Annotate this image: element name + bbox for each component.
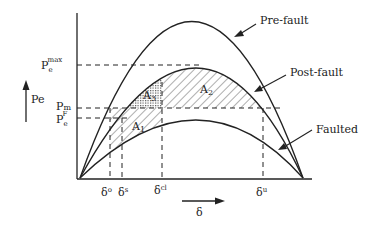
pemax-label: Pemax: [41, 56, 62, 74]
y-axis-label: Pe: [31, 93, 44, 106]
post-fault-pointer: [260, 75, 286, 89]
pef-label: PeF: [56, 110, 68, 128]
power-angle-diagram: Pe Pemax Pm PeF δo δs δcl δu δ A3 A2 A1 …: [0, 0, 375, 227]
delta-s-label: δs: [118, 186, 129, 199]
pre-fault-pointer: [240, 24, 256, 34]
pre-fault-arrow-icon: [234, 30, 244, 37]
faulted-label: Faulted: [316, 123, 358, 136]
pe-arrow-icon: [23, 80, 30, 90]
delta-u-label: δu: [256, 186, 268, 199]
post-fault-arrow-icon: [254, 85, 263, 92]
area-a2-region: [162, 60, 263, 108]
pre-fault-label: Pre-fault: [260, 14, 309, 27]
x-axis-label: δ: [196, 206, 203, 219]
delta-cl-label: δcl: [154, 184, 168, 197]
post-fault-label: Post-fault: [290, 66, 344, 79]
delta-o-label: δo: [101, 186, 112, 199]
delta-arrow-icon: [215, 198, 225, 205]
